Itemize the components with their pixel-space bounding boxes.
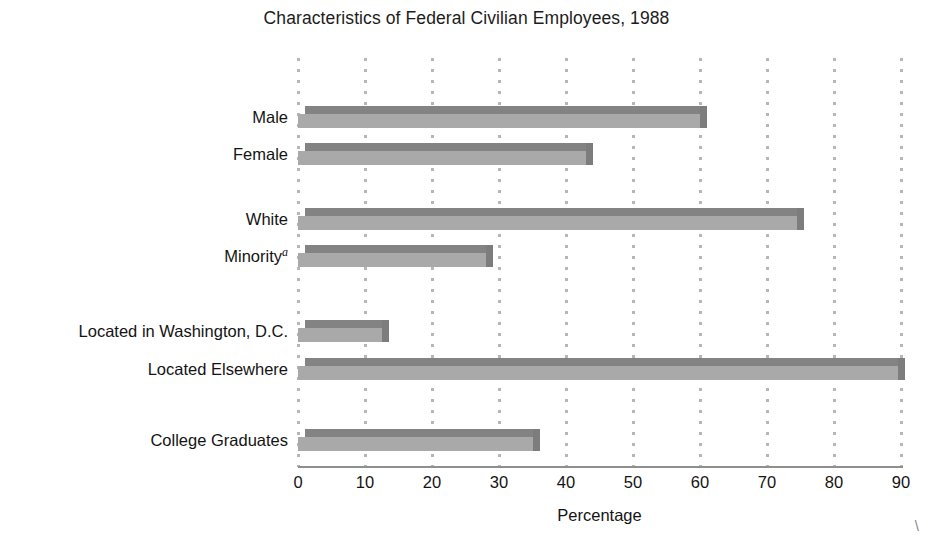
category-label-2: White bbox=[0, 210, 288, 229]
x-tick-60: 60 bbox=[670, 473, 730, 492]
page-corner-mark: \ bbox=[915, 517, 919, 534]
bar-side-face bbox=[797, 208, 804, 230]
x-tick-90: 90 bbox=[871, 473, 931, 492]
x-tick-40: 40 bbox=[536, 473, 596, 492]
bar-front-face bbox=[298, 151, 586, 165]
bar-side-face bbox=[700, 106, 707, 128]
bar-front-face bbox=[298, 114, 700, 128]
x-tick-50: 50 bbox=[603, 473, 663, 492]
category-label-6: College Graduates bbox=[0, 431, 288, 450]
x-tick-0: 0 bbox=[268, 473, 328, 492]
bar-side-face bbox=[382, 320, 389, 342]
x-axis-tick-labels: 0102030405060708090 bbox=[0, 473, 933, 499]
bar-side-face bbox=[586, 143, 593, 165]
category-label-text: Minority bbox=[224, 247, 282, 265]
bar-0 bbox=[298, 106, 700, 120]
gridline-70 bbox=[766, 58, 769, 467]
bar-4 bbox=[298, 320, 382, 334]
x-tick-70: 70 bbox=[737, 473, 797, 492]
x-axis-line bbox=[298, 466, 903, 468]
bar-2 bbox=[298, 208, 797, 222]
bar-front-face bbox=[298, 328, 382, 342]
chart-figure: Characteristics of Federal Civilian Empl… bbox=[0, 0, 933, 560]
category-label-0: Male bbox=[0, 108, 288, 127]
category-label-text: College Graduates bbox=[150, 431, 288, 449]
x-tick-80: 80 bbox=[804, 473, 864, 492]
category-label-5: Located Elsewhere bbox=[0, 360, 288, 379]
x-tick-20: 20 bbox=[402, 473, 462, 492]
category-label-4: Located in Washington, D.C. bbox=[0, 322, 288, 341]
gridline-90 bbox=[900, 58, 903, 467]
plot-area bbox=[298, 58, 901, 467]
category-label-text: Male bbox=[252, 108, 288, 126]
x-tick-30: 30 bbox=[469, 473, 529, 492]
bar-front-face bbox=[298, 253, 486, 267]
chart-title: Characteristics of Federal Civilian Empl… bbox=[0, 8, 933, 29]
bar-3 bbox=[298, 245, 486, 259]
category-label-text: Located in Washington, D.C. bbox=[79, 322, 288, 340]
category-label-text: Female bbox=[233, 145, 288, 163]
bar-1 bbox=[298, 143, 586, 157]
x-axis-title: Percentage bbox=[298, 506, 901, 525]
x-tick-10: 10 bbox=[335, 473, 395, 492]
category-label-text: Located Elsewhere bbox=[148, 360, 288, 378]
category-label-3: Minoritya bbox=[0, 247, 288, 266]
bar-side-face bbox=[533, 429, 540, 451]
category-label-text: White bbox=[246, 210, 288, 228]
footnote-marker: a bbox=[282, 245, 288, 259]
bar-side-face bbox=[486, 245, 493, 267]
bar-5 bbox=[298, 358, 898, 372]
category-label-1: Female bbox=[0, 145, 288, 164]
category-axis-labels: MaleFemaleWhiteMinorityaLocated in Washi… bbox=[0, 58, 288, 467]
bar-front-face bbox=[298, 366, 898, 380]
gridline-80 bbox=[833, 58, 836, 467]
bar-6 bbox=[298, 429, 533, 443]
bar-side-face bbox=[898, 358, 905, 380]
bar-front-face bbox=[298, 437, 533, 451]
bar-front-face bbox=[298, 216, 797, 230]
